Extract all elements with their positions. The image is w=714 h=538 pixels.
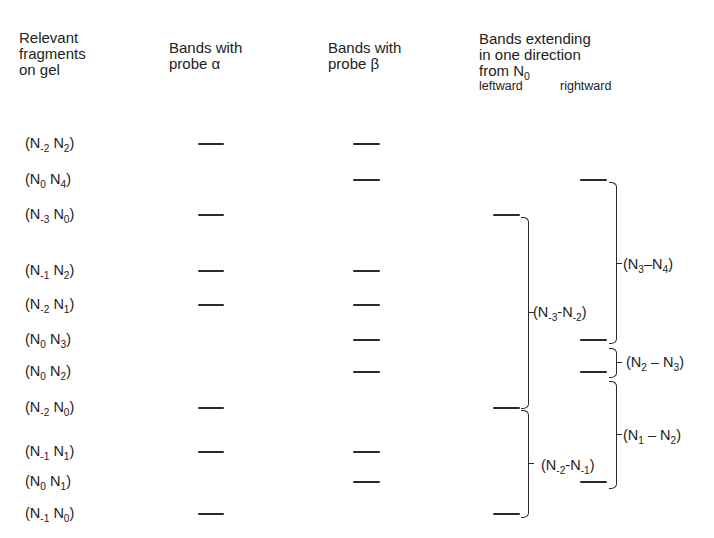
bracket-label-from: N [546,457,556,473]
fragment-end-sub: 1 [64,451,70,462]
fragment-end: N [53,443,63,459]
bracket-label-rightward-2: (N2 – N3) [626,353,684,371]
bracket-leftward-1 [521,217,529,409]
bracket-label-to: N [652,256,662,272]
bracket-label-from: N [628,427,638,443]
fragment-label: (N-1 N2) [25,261,74,279]
bracket-label-to-sub: 2 [671,435,677,446]
fragment-end: N [53,262,63,278]
fragment-start-sub: -2 [40,143,49,154]
fragment-end-sub: 1 [60,481,66,492]
fragment-label: (N-3 N0) [25,205,74,223]
bracket-label-to: N [660,427,670,443]
fragment-end-sub: 3 [60,339,66,350]
bracket-label-from-sub: -2 [556,465,565,476]
fragment-start: N [30,399,40,415]
bracket-tip-rightward-3 [617,434,622,435]
bracket-label-to: N [663,354,673,370]
band-probe-beta [353,270,380,272]
band-probe-beta [353,451,380,453]
fragment-start: N [30,473,40,489]
fragment-end: N [53,399,63,415]
band-probe-beta [353,179,380,181]
header-probe-alpha-line-1: Bands with [169,40,242,56]
band-probe-alpha [198,143,224,145]
fragment-start: N [30,206,40,222]
fragment-end: N [50,363,60,379]
band-probe-beta [353,481,380,483]
fragment-end: N [53,296,63,312]
fragment-start-sub: 0 [40,179,46,190]
bracket-label-sep: – [644,427,660,443]
header-extending-line-2: in one direction [479,47,591,63]
band-rightward [580,179,607,181]
fragment-start: N [30,505,40,521]
bracket-tip-leftward-2 [529,463,534,464]
band-probe-alpha [198,270,224,272]
band-probe-beta [353,304,380,306]
bracket-leftward-2 [521,410,529,518]
fragment-start-sub: 0 [40,481,46,492]
fragment-end-sub: 0 [64,513,70,524]
bracket-label-to: N [570,457,580,473]
fragment-end-sub: 2 [64,143,70,154]
fragment-end-sub: 0 [64,407,70,418]
header-fragments-line-2: fragments [19,46,86,62]
header-probe-beta-line-2: probe β [328,56,401,72]
bracket-rightward-2 [609,348,617,378]
band-probe-alpha [198,513,224,515]
fragment-label: (N-2 N2) [25,134,74,152]
header-extending-subscript: 0 [524,70,530,82]
fragment-start: N [30,171,40,187]
band-probe-alpha [198,407,224,409]
fragment-start-sub: 0 [40,339,46,350]
band-probe-alpha [198,214,224,216]
fragment-label: (N0 N2) [25,362,71,380]
fragment-end-sub: 4 [60,179,66,190]
bracket-label-leftward-2: (N-2-N-1) [541,456,595,474]
bracket-label-leftward-1: (N-3-N-2) [533,303,587,321]
bracket-tip-rightward-2 [617,362,622,363]
fragment-end: N [53,505,63,521]
bracket-label-sep: – [644,256,652,272]
bracket-label-from-sub: -3 [548,312,557,323]
band-leftward [493,513,520,515]
header-probe-alpha-line-2: probe α [169,56,242,72]
bracket-label-to-sub: 4 [663,264,669,275]
bracket-label-to: N [562,304,572,320]
fragment-end: N [53,206,63,222]
fragment-label: (N0 N3) [25,330,71,348]
fragment-start: N [30,262,40,278]
fragment-start-sub: -2 [40,407,49,418]
fragment-label: (N0 N4) [25,170,71,188]
header-fragments-line-3: on gel [19,62,86,78]
fragment-end: N [50,473,60,489]
band-probe-beta [353,143,380,145]
band-rightward [580,481,607,483]
header-extending-line-3: from N0 [479,63,591,79]
fragment-label: (N-2 N1) [25,295,74,313]
fragment-start: N [30,296,40,312]
bracket-label-to-sub: -2 [573,312,582,323]
fragment-label: (N0 N1) [25,472,71,490]
fragment-end-sub: 2 [60,371,66,382]
band-leftward [493,407,520,409]
fragment-start-sub: -1 [40,513,49,524]
band-leftward [493,214,520,216]
fragment-label: (N-1 N1) [25,442,74,460]
bracket-label-rightward-3: (N1 – N2) [623,426,681,444]
header-probe-beta: Bands with probe β [328,40,401,72]
subheader-rightward: rightward [560,79,611,93]
fragment-end-sub: 1 [64,304,70,315]
fragment-label: (N-2 N0) [25,398,74,416]
subheader-leftward: leftward [479,79,523,93]
bracket-tip-rightward-1 [617,263,622,264]
header-fragments: Relevant fragments on gel [19,30,86,78]
band-probe-alpha [198,451,224,453]
bracket-rightward-3 [609,381,617,489]
fragment-end: N [50,331,60,347]
header-extending: Bands extending in one direction from N0 [479,31,591,79]
fragment-start: N [30,331,40,347]
bracket-label-to-sub: -1 [581,465,590,476]
band-rightward [580,339,607,341]
